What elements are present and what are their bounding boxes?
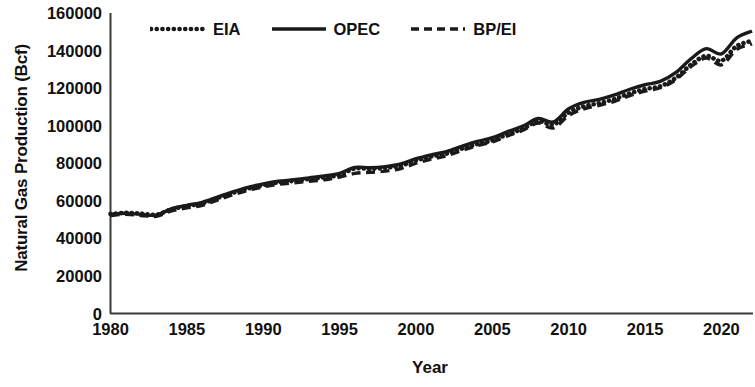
series-line-eia [111, 41, 753, 215]
legend-label: BP/EI [473, 20, 516, 39]
axis-lines [110, 13, 753, 314]
series-line-opec [111, 31, 753, 215]
series-line-bp-ei [111, 44, 753, 217]
legend-label: OPEC [334, 20, 381, 39]
legend-item-opec[interactable]: OPEC [271, 20, 381, 39]
legend-item-bp-ei[interactable]: BP/EI [410, 20, 516, 39]
data-series-layer [111, 31, 753, 216]
chart-legend: EIAOPECBP/EI [150, 14, 516, 44]
legend-label: EIA [213, 20, 241, 39]
plot-area [0, 0, 755, 387]
legend-swatch-dotted [150, 22, 206, 36]
chart-figure: Natural Gas Production (Bcf) 16000014000… [0, 0, 755, 387]
legend-item-eia[interactable]: EIA [150, 20, 241, 39]
legend-swatch-dashed [410, 22, 466, 36]
legend-swatch-solid [271, 22, 327, 36]
